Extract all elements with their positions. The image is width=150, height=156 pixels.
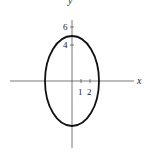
y-tick-label-6: 6 xyxy=(63,22,68,32)
x-axis-label: x xyxy=(136,75,142,86)
y-axis-label: y xyxy=(67,0,73,6)
x-tick-label-1: 1 xyxy=(78,87,83,97)
ellipse-plot: x y 1 2 4 6 xyxy=(0,0,150,156)
y-tick-label-4: 4 xyxy=(63,40,68,50)
x-tick-label-2: 2 xyxy=(87,87,92,97)
